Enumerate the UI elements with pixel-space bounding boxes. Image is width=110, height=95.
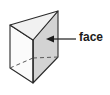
- triangular-prism-drawing: [0, 0, 110, 95]
- face-label: face: [79, 30, 103, 44]
- geometry-figure: face: [0, 0, 110, 95]
